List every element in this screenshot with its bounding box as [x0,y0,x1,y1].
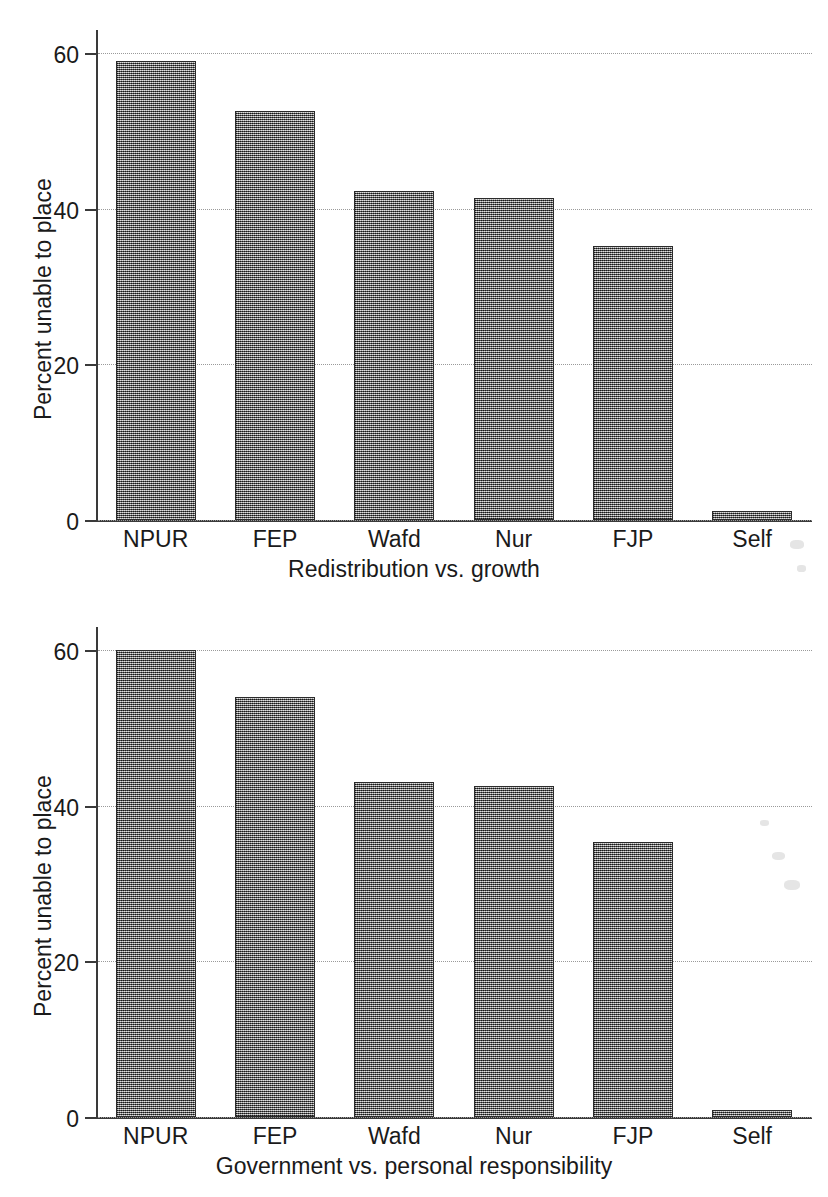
gridline-40-top [98,209,812,210]
x-tick-label-npur-bottom: NPUR [123,1125,188,1148]
y-tick-label-0-top: 0 [66,511,79,534]
y-tick-40-bottom: 40 [85,806,96,808]
bar-nur-bottom [474,786,554,1117]
gridline-0-top [98,520,812,521]
bar-npur-top [116,61,196,520]
y-tick-60-bottom: 60 [85,650,96,652]
y-tick-label-20-top: 20 [53,355,79,378]
bar-fep-top [235,111,315,520]
bar-self-top [712,511,792,520]
x-tick-label-fjp-top: FJP [612,528,653,551]
x-tick-label-fep-top: FEP [253,528,298,551]
gridline-20-top [98,364,812,365]
y-axis-spine-bottom [96,627,98,1117]
bar-fep-bottom [235,697,315,1117]
chart-panel-government-vs-personal-responsibility: Percent unable to place 0 20 40 60 [0,597,828,1197]
y-tick-label-0-bottom: 0 [66,1108,79,1131]
x-tick-label-self-bottom: Self [732,1125,772,1148]
bar-self-bottom [712,1110,792,1117]
x-tick-label-npur-top: NPUR [123,528,188,551]
bar-wafd-top [354,191,434,520]
y-tick-label-20-bottom: 20 [53,952,79,975]
y-tick-60-top: 60 [85,53,96,55]
x-tick-label-fep-bottom: FEP [253,1125,298,1148]
bar-wafd-bottom [354,782,434,1117]
gridline-20-bottom [98,961,812,962]
y-tick-0-bottom: 0 [85,1117,96,1119]
gridline-0-bottom [98,1117,812,1118]
x-tick-label-nur-bottom: Nur [495,1125,532,1148]
gridline-60-top [98,53,812,54]
x-tick-label-nur-top: Nur [495,528,532,551]
y-tick-0-top: 0 [85,520,96,522]
x-tick-label-fjp-bottom: FJP [612,1125,653,1148]
plot-area-bottom: 0 20 40 60 NPUR FEP Wafd Nur [96,627,812,1117]
plot-area-top: 0 20 40 60 NPUR FEP Wafd [96,30,812,520]
x-tick-label-self-top: Self [732,528,772,551]
y-tick-20-bottom: 20 [85,961,96,963]
gridline-40-bottom [98,806,812,807]
bar-fjp-top [593,246,673,520]
y-tick-40-top: 40 [85,209,96,211]
chart-panel-redistribution-vs-growth: Percent unable to place 0 20 40 60 [0,0,828,600]
y-tick-20-top: 20 [85,364,96,366]
bar-npur-bottom [116,650,196,1117]
y-tick-label-40-bottom: 40 [53,796,79,819]
x-axis-title-bottom: Government vs. personal responsibility [0,1153,828,1180]
y-tick-label-60-top: 60 [53,44,79,67]
gridline-60-bottom [98,650,812,651]
bar-fjp-bottom [593,842,673,1117]
y-axis-spine-top [96,30,98,520]
bar-nur-top [474,198,554,520]
x-tick-label-wafd-top: Wafd [368,528,421,551]
y-tick-label-60-bottom: 60 [53,641,79,664]
y-tick-label-40-top: 40 [53,199,79,222]
x-axis-title-top: Redistribution vs. growth [0,556,828,583]
x-tick-label-wafd-bottom: Wafd [368,1125,421,1148]
